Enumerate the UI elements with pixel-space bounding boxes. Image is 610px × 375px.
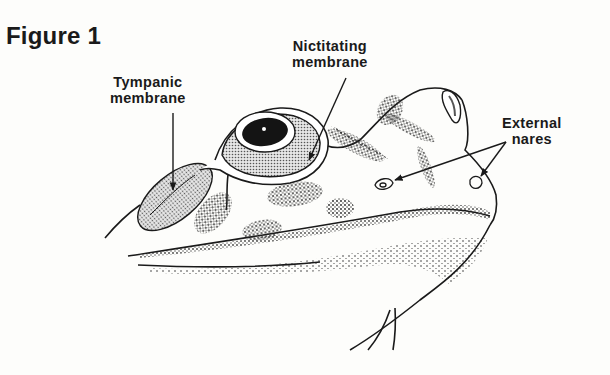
label-nictitating-membrane: Nictitating membrane [292, 38, 368, 70]
figure-page: Figure 1 [0, 0, 610, 375]
arrow-nares-1 [395, 142, 506, 180]
eye [200, 108, 328, 185]
arrow-nares-2 [481, 142, 506, 176]
lip-stippling [140, 205, 490, 285]
label-external-nares: External nares [502, 115, 562, 147]
label-tympanic-membrane: Tympanic membrane [110, 74, 186, 106]
